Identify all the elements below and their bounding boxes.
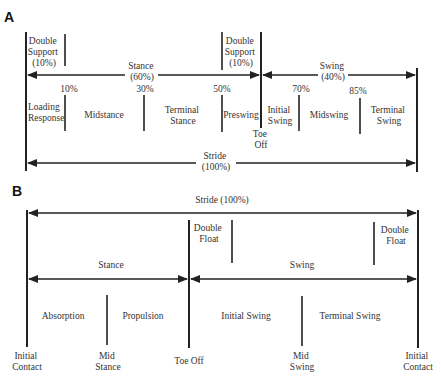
stance-label-b: Stance bbox=[98, 260, 123, 270]
percent-30: 30% bbox=[136, 84, 154, 94]
phase-initial-swing: Initial Swing bbox=[267, 105, 292, 126]
percent-70: 70% bbox=[292, 84, 310, 94]
event-toe-off: Toe Off bbox=[174, 356, 204, 366]
phase-terminal-swing-b: Terminal Swing bbox=[320, 311, 381, 321]
percent-50: 50% bbox=[213, 84, 231, 94]
event-mid-swing: Mid Swing bbox=[290, 351, 315, 372]
percent-10: 10% bbox=[60, 84, 78, 94]
phase-loading-response: Loading Response bbox=[28, 102, 64, 123]
stride-label-b: Stride (100%) bbox=[195, 195, 249, 206]
stride-label: Stride (100%) bbox=[202, 151, 231, 173]
panel-a: A Double Support (10%) Double Support (1… bbox=[4, 9, 417, 173]
swing-label-b: Swing bbox=[290, 260, 315, 270]
event-initial-contact-right: Initial Contact bbox=[403, 351, 433, 372]
gait-cycle-diagram: A Double Support (10%) Double Support (1… bbox=[0, 0, 441, 381]
stance-label: Stance (60%) bbox=[128, 61, 156, 83]
phase-initial-swing-b: Initial Swing bbox=[221, 311, 271, 321]
toe-off-label: Toe Off bbox=[253, 129, 269, 150]
double-float-left-label: Double Float bbox=[194, 223, 224, 244]
panel-a-label: A bbox=[4, 9, 14, 25]
double-float-right-label: Double Float bbox=[381, 225, 411, 246]
phase-midswing: Midswing bbox=[310, 110, 349, 120]
swing-label: Swing (40%) bbox=[320, 61, 347, 83]
phase-terminal-stance: Terminal Stance bbox=[165, 105, 202, 126]
panel-b: B Stride (100%) Double Float Double Floa… bbox=[12, 183, 433, 372]
phase-midstance: Midstance bbox=[84, 110, 124, 120]
panel-b-label: B bbox=[12, 183, 22, 199]
phase-preswing: Preswing bbox=[223, 110, 259, 120]
double-support-left-label: Double Support (10%) bbox=[28, 36, 60, 69]
double-support-right-label: Double Support (10%) bbox=[225, 36, 257, 69]
phase-absorption: Absorption bbox=[42, 311, 85, 321]
phase-terminal-swing: Terminal Swing bbox=[371, 105, 408, 126]
phase-propulsion: Propulsion bbox=[122, 311, 163, 321]
event-mid-stance: Mid Stance bbox=[95, 351, 120, 372]
percent-85: 85% bbox=[349, 86, 367, 96]
event-initial-contact-left: Initial Contact bbox=[12, 351, 42, 372]
